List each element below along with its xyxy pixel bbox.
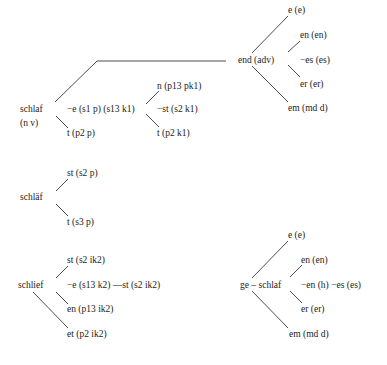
- node-end-adv: end (adv): [238, 56, 274, 66]
- node-schlaf: schlaf: [20, 105, 43, 115]
- edge-ge-er: [290, 291, 302, 303]
- edge-end-e: [252, 16, 288, 53]
- node-schlaef: schläf: [20, 193, 43, 203]
- edge-e-n: [146, 91, 159, 104]
- node-schlaef-st: st (s2 p): [67, 169, 98, 179]
- node-t-p2k1: t (p2 k1): [157, 129, 190, 139]
- node-ge-schlaf: ge – schlaf: [240, 281, 281, 291]
- node-ge-er: er (er): [301, 305, 324, 315]
- edge-e-t: [146, 114, 159, 127]
- edge-schlief-st: [56, 266, 68, 278]
- edge-schlief-et: [33, 292, 68, 328]
- node-e-s1p: −e (s1 p) (s13 k1): [67, 105, 135, 115]
- node-t-p2p: t (p2 p): [67, 129, 95, 139]
- edge-schlaef-t: [56, 204, 68, 216]
- node-schlief-et: et (p2 ik2): [67, 330, 107, 340]
- node-end-es: −es (es): [300, 56, 330, 66]
- edge-schlaef-st: [56, 179, 68, 191]
- node-schlaf-pos: (n v): [20, 119, 38, 129]
- edge-ge-e: [252, 241, 288, 278]
- node-ge-e: e (e): [288, 231, 305, 241]
- edge-end-er: [288, 65, 300, 77]
- node-n-p13pk1: n (p13 pk1): [157, 82, 201, 92]
- edge-schlaf-t: [56, 116, 68, 128]
- morphology-diagram: schlaf (n v) −e (s1 p) (s13 k1) n (p13 p…: [0, 0, 387, 365]
- node-schlief-st: st (s2 ik2): [67, 256, 105, 266]
- node-end-er: er (er): [300, 80, 323, 90]
- node-schlief-en: en (p13 ik2): [67, 305, 113, 315]
- node-end-en: en (en): [300, 31, 327, 41]
- edge-ge-en: [290, 265, 302, 277]
- node-schlaef-t: t (s3 p): [67, 218, 94, 228]
- node-schlief-e: −e (s13 k2) —st (s2 ik2): [67, 281, 160, 291]
- node-ge-en-h-es: −en (h) −es (es): [301, 281, 361, 291]
- node-ge-en: en (en): [301, 256, 328, 266]
- edge-end-em: [252, 66, 288, 102]
- node-st-s2k1: −st (s2 k1): [157, 105, 198, 115]
- node-end-em: em (md d): [288, 104, 328, 114]
- node-ge-em: em (md d): [289, 330, 329, 340]
- edge-ge-em: [252, 291, 288, 328]
- node-end-e: e (e): [288, 6, 305, 16]
- edge-end-en: [288, 41, 300, 52]
- edge-schlief-en: [56, 292, 68, 304]
- node-schlief: schlief: [18, 281, 43, 291]
